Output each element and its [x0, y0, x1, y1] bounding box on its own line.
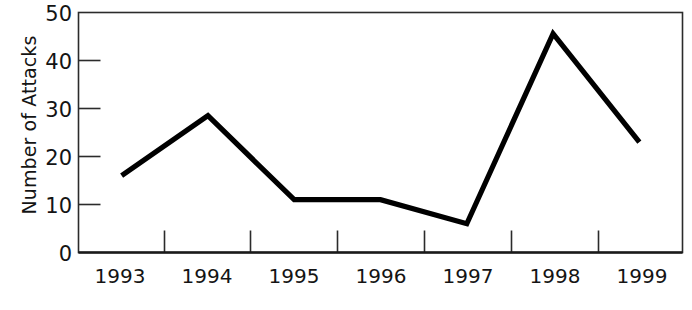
x-axis-tick-labels: 1993 1994 1995 1996 1997 1998 1999: [78, 264, 683, 298]
x-tick-label-1998: 1998: [510, 264, 600, 288]
x-tick-label-1997: 1997: [423, 264, 513, 288]
x-tick-label-1996: 1996: [336, 264, 426, 288]
x-tick-label-1995: 1995: [249, 264, 339, 288]
line-chart: Number of Attacks 50 40 30 20 10 0: [0, 0, 692, 310]
plot-frame: [79, 13, 683, 253]
x-tick-label-1994: 1994: [162, 264, 252, 288]
x-tick-label-1993: 1993: [75, 264, 165, 288]
x-tick-label-1999: 1999: [597, 264, 687, 288]
